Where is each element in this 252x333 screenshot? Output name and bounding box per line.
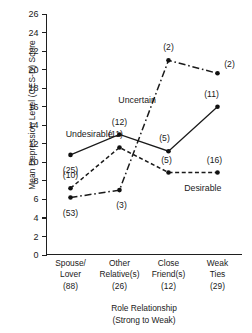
y-axis-tick-label: 2 — [33, 232, 38, 241]
x-axis-category-line: (12) — [152, 281, 186, 292]
y-axis-tick-label: 20 — [28, 65, 38, 74]
data-point-marker — [68, 153, 73, 158]
x-axis-category-line: Weak — [207, 258, 228, 269]
x-axis-title-main: Role Relationship — [46, 303, 242, 315]
y-axis-tick-label: 6 — [33, 195, 38, 204]
x-axis-category-label: WeakTies(29) — [207, 258, 228, 292]
x-axis-category-label: OtherRelative(s)(26) — [99, 258, 139, 292]
x-axis-category-line: Friend(s) — [152, 269, 186, 280]
y-axis-tick-label: 24 — [28, 28, 38, 37]
y-axis-tick-label: 22 — [28, 47, 38, 56]
data-point-marker — [68, 186, 73, 191]
x-axis-category-line: Spouse/ — [55, 258, 86, 269]
x-axis-categories: Spouse/Lover(88)OtherRelative(s)(26)Clos… — [46, 258, 242, 300]
data-point-marker — [117, 145, 122, 150]
y-axis-tick-label: 10 — [28, 158, 38, 167]
series-label-uncertain: Uncertain — [118, 96, 156, 105]
series-label-desirable: Desirable — [184, 184, 221, 193]
point-count-label: (53) — [63, 208, 78, 217]
x-axis-title-sub: (Strong to Weak) — [46, 315, 242, 327]
x-axis-category-label: Spouse/Lover(88) — [55, 258, 86, 292]
point-count-label: (2) — [224, 60, 235, 69]
point-count-label: (2) — [163, 43, 174, 52]
x-axis-category-line: Other — [99, 258, 139, 269]
y-axis-tick-label: 0 — [33, 251, 38, 260]
y-axis-title: Mean Depression Level (CES-D) Score — [27, 5, 37, 225]
y-axis-tick-label: 12 — [28, 139, 38, 148]
y-axis-tick-label: 16 — [28, 102, 38, 111]
point-count-label: (10) — [63, 171, 78, 180]
data-point-marker — [166, 149, 171, 154]
x-axis-category-label: CloseFriend(s)(12) — [152, 258, 186, 292]
x-axis-category-line: Relative(s) — [99, 269, 139, 280]
data-point-marker — [166, 58, 171, 63]
x-axis-category-line: Ties — [207, 269, 228, 280]
point-count-label: (12) — [112, 117, 127, 126]
point-count-label: (11) — [204, 89, 219, 98]
y-axis-tick-label: 26 — [28, 10, 38, 19]
x-axis-category-line: (26) — [99, 281, 139, 292]
x-axis-title: Role Relationship (Strong to Weak) — [46, 303, 242, 326]
chart-figure: Mean Depression Level (CES-D) Score 2624… — [0, 0, 252, 333]
data-point-marker — [117, 188, 122, 193]
y-axis-tick-label: 14 — [28, 121, 38, 130]
data-point-marker — [166, 170, 171, 175]
data-point-marker — [68, 195, 73, 200]
data-point-marker — [215, 104, 220, 109]
x-axis-category-line: (88) — [55, 281, 86, 292]
series-label-undesirable: Undesirable — [66, 129, 113, 138]
x-axis-category-line: Close — [152, 258, 186, 269]
y-axis-tick-label: 4 — [33, 213, 38, 222]
y-axis-tick-label: 8 — [33, 176, 38, 185]
point-count-label: (16) — [207, 155, 222, 164]
data-point-marker — [215, 170, 220, 175]
data-point-marker — [215, 71, 220, 76]
plot-area: 26242220181614121086420 (25)(12)(5)(11)(… — [46, 14, 242, 255]
y-axis-tick-label: 18 — [28, 84, 38, 93]
point-count-label: (3) — [116, 201, 127, 210]
x-axis-category-line: Lover — [55, 269, 86, 280]
point-count-label: (5) — [161, 155, 172, 164]
x-axis-category-line: (29) — [207, 281, 228, 292]
point-count-label: (5) — [159, 134, 170, 143]
